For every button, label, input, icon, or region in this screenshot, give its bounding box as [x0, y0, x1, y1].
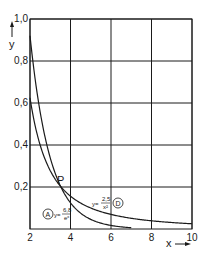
y-axis-label: y	[9, 21, 15, 50]
svg-text:y=: y=	[54, 212, 61, 218]
curve-a	[30, 36, 131, 228]
y-tick-label: 0,8	[14, 55, 28, 66]
svg-text:A: A	[46, 211, 51, 218]
x-tick-label: 2	[27, 232, 33, 243]
x-tick-label: 10	[186, 232, 198, 243]
curve-a-label: A y= 6,8 eˣ	[43, 207, 72, 221]
svg-text:eˣ: eˣ	[64, 215, 69, 221]
svg-text:2,5: 2,5	[102, 196, 111, 202]
x-tick-label: 8	[149, 232, 155, 243]
svg-text:y=: y=	[92, 201, 99, 207]
grid	[30, 19, 192, 229]
x-axis-title: x	[166, 237, 172, 249]
y-tick-label: 1,0	[14, 13, 28, 24]
svg-text:6,8: 6,8	[63, 207, 72, 213]
curve-d-label: y= 2,5 x² D	[92, 196, 123, 210]
y-tick-label: 0,4	[14, 139, 28, 150]
chart: 2468100,20,40,60,81,0 y x P y= 2,5 x² D …	[0, 0, 206, 262]
y-tick-label: 0,2	[14, 181, 28, 192]
svg-text:x²: x²	[103, 204, 108, 210]
x-tick-label: 4	[68, 232, 74, 243]
svg-text:D: D	[116, 200, 121, 207]
y-tick-label: 0,6	[14, 97, 28, 108]
x-tick-label: 6	[108, 232, 114, 243]
y-axis-title: y	[9, 38, 15, 50]
point-p-label: P	[57, 174, 64, 186]
